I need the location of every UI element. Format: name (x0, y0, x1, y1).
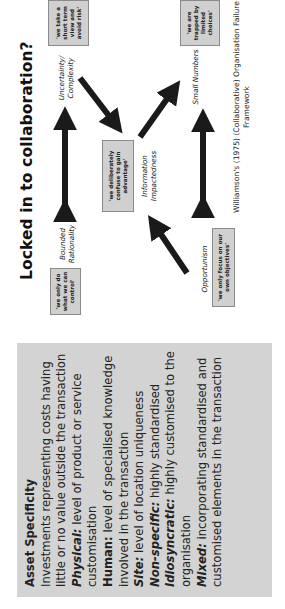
quote-small-numbers: 'we are trapped by limited choices' (180, 0, 220, 46)
arrow-uncertainty-to-information-icon (80, 78, 116, 125)
arrow-opportunism-to-information-icon (154, 224, 187, 273)
quote-bounded: 'we only do what we can control' (50, 268, 81, 315)
label-information: Information Impactedness (140, 145, 158, 207)
quote-information: 'we deliberately confuse to gain advanta… (102, 140, 134, 212)
arrow-information-to-small-numbers-icon (140, 89, 174, 137)
label-uncertainty: Uncertainty/ Complexity (57, 52, 75, 104)
framework-caption: Williamson's (1975) (Collaborative) Orga… (232, 0, 252, 214)
slide: Locked in to collaboration? Asset Specif… (0, 0, 285, 609)
quote-uncertainty: 'we take a short term view and avoid ris… (48, 0, 89, 46)
quote-opportunism: 'we only focus on our own objectives' (212, 228, 235, 307)
label-bounded: Bounded Rationality (58, 221, 76, 267)
label-opportunism: Opportunism (200, 241, 209, 297)
label-small-numbers: Small Numbers (191, 45, 200, 109)
